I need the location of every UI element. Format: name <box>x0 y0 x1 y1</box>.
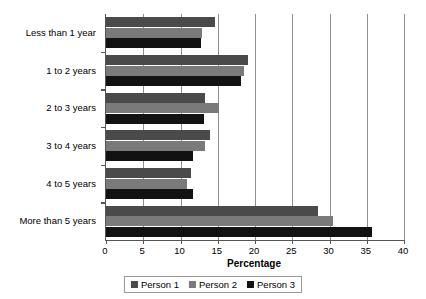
x-tick-mark <box>292 240 293 244</box>
y-tick-mark <box>101 127 106 128</box>
bar <box>106 179 187 189</box>
bar <box>106 93 205 103</box>
x-tick-label: 25 <box>286 245 297 256</box>
bar-group <box>106 168 404 199</box>
bar-chart: Less than 1 year1 to 2 years2 to 3 years… <box>0 0 426 299</box>
x-tick-mark <box>106 240 107 244</box>
bar-group <box>106 130 404 161</box>
x-tick-mark <box>181 240 182 244</box>
x-tick-label: 40 <box>398 245 409 256</box>
y-tick-mark <box>101 165 106 166</box>
x-tick-label: 10 <box>174 245 185 256</box>
y-tick-mark <box>101 89 106 90</box>
category-label: More than 5 years <box>19 215 96 226</box>
category-label: 1 to 2 years <box>46 65 96 76</box>
legend-swatch <box>189 281 196 288</box>
bar <box>106 114 204 124</box>
bar <box>106 17 215 27</box>
bar <box>106 38 201 48</box>
bar <box>106 130 210 140</box>
category-label: Less than 1 year <box>26 27 96 38</box>
category-label: 4 to 5 years <box>46 178 96 189</box>
y-tick-mark <box>101 202 106 203</box>
x-tick-mark <box>404 240 405 244</box>
x-axis-title: Percentage <box>105 258 403 270</box>
legend-label: Person 2 <box>199 279 237 290</box>
legend-entry: Person 2 <box>189 279 237 290</box>
x-tick-mark <box>255 240 256 244</box>
bar <box>106 227 372 237</box>
bar <box>106 168 191 178</box>
bar <box>106 76 241 86</box>
legend-label: Person 3 <box>257 279 295 290</box>
bar <box>106 141 205 151</box>
bar <box>106 103 219 113</box>
x-tick-label: 30 <box>323 245 334 256</box>
bar <box>106 28 202 38</box>
bar <box>106 151 193 161</box>
x-tick-label: 0 <box>102 245 107 256</box>
bar <box>106 216 333 226</box>
bar <box>106 206 318 216</box>
x-tick-mark <box>367 240 368 244</box>
legend-entry: Person 1 <box>131 279 179 290</box>
category-label: 3 to 4 years <box>46 140 96 151</box>
x-tick-mark <box>143 240 144 244</box>
x-tick-mark <box>218 240 219 244</box>
x-tick-mark <box>330 240 331 244</box>
x-axis-tick-labels: 0510152025303540 <box>105 245 403 259</box>
bar <box>106 55 248 65</box>
bar-group <box>106 93 404 124</box>
bar-group <box>106 17 404 48</box>
category-label: 2 to 3 years <box>46 102 96 113</box>
plot-area <box>105 14 404 241</box>
x-tick-label: 35 <box>360 245 371 256</box>
bar <box>106 189 193 199</box>
bar-group <box>106 55 404 86</box>
legend-swatch <box>247 281 254 288</box>
gridline <box>404 14 405 240</box>
chart-legend: Person 1Person 2Person 3 <box>124 276 302 293</box>
x-tick-label: 5 <box>140 245 145 256</box>
bar-group <box>106 206 404 237</box>
y-tick-mark <box>101 52 106 53</box>
x-tick-label: 20 <box>249 245 260 256</box>
x-tick-label: 15 <box>211 245 222 256</box>
legend-entry: Person 3 <box>247 279 295 290</box>
legend-label: Person 1 <box>141 279 179 290</box>
category-axis: Less than 1 year1 to 2 years2 to 3 years… <box>0 14 101 240</box>
bar <box>106 66 244 76</box>
legend-swatch <box>131 281 138 288</box>
